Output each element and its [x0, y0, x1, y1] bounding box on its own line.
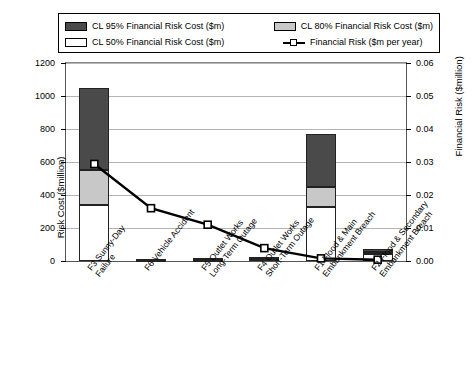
- right-axis-tick-label: 0.00: [416, 257, 456, 266]
- right-axis-tick: [406, 162, 411, 163]
- gray-swatch-icon: [274, 22, 296, 31]
- right-axis-tick: [406, 195, 411, 196]
- financial-risk-chart: CL 95% Financial Risk Cost ($m) CL 80% F…: [0, 0, 476, 381]
- right-axis-tick: [406, 63, 411, 64]
- right-axis-tick-label: 0.04: [416, 125, 456, 134]
- right-axis-tick-label: 0.06: [416, 59, 456, 68]
- right-axis-tick: [406, 261, 411, 262]
- legend-row-2: CL 50% Financial Risk Cost ($m) Financia…: [65, 34, 433, 50]
- left-axis-tick-label: 200: [9, 224, 55, 233]
- left-axis-title: Risk Cost ($million): [55, 157, 66, 239]
- legend-item-cl80: CL 80% Financial Risk Cost ($m): [274, 21, 433, 31]
- left-axis-tick-label: 400: [9, 191, 55, 200]
- left-axis-tick-label: 600: [9, 158, 55, 167]
- plot-area: 020040060080010001200 0.000.010.020.030.…: [65, 62, 407, 262]
- dark-swatch-icon: [65, 22, 87, 31]
- legend-item-cl50: CL 50% Financial Risk Cost ($m): [65, 37, 283, 47]
- left-axis-tick-label: 1200: [9, 59, 55, 68]
- right-axis-tick-label: 0.03: [416, 158, 456, 167]
- chart-legend: CL 95% Financial Risk Cost ($m) CL 80% F…: [58, 13, 440, 53]
- legend-label-cl50: CL 50% Financial Risk Cost ($m): [92, 37, 224, 47]
- right-axis-title: Financial Risk ($million): [453, 56, 464, 156]
- right-axis-tick: [406, 129, 411, 130]
- legend-row-1: CL 95% Financial Risk Cost ($m) CL 80% F…: [65, 18, 433, 34]
- left-axis-tick-label: 1000: [9, 92, 55, 101]
- right-axis-tick: [406, 96, 411, 97]
- financial-risk-marker: [204, 221, 211, 228]
- legend-label-cl80: CL 80% Financial Risk Cost ($m): [301, 21, 433, 31]
- financial-risk-marker: [148, 205, 155, 212]
- financial-risk-marker: [91, 160, 98, 167]
- white-swatch-icon: [65, 38, 87, 47]
- legend-item-cl95: CL 95% Financial Risk Cost ($m): [65, 21, 274, 31]
- legend-item-financial-risk: Financial Risk ($m per year): [283, 37, 423, 47]
- left-axis-tick-label: 0: [9, 257, 55, 266]
- right-axis-tick-label: 0.05: [416, 92, 456, 101]
- legend-label-financial-risk: Financial Risk ($m per year): [310, 37, 423, 47]
- left-axis-tick-label: 800: [9, 125, 55, 134]
- line-marker-key-icon: [283, 38, 305, 47]
- left-axis-tick: [61, 261, 66, 262]
- legend-label-cl95: CL 95% Financial Risk Cost ($m): [92, 21, 224, 31]
